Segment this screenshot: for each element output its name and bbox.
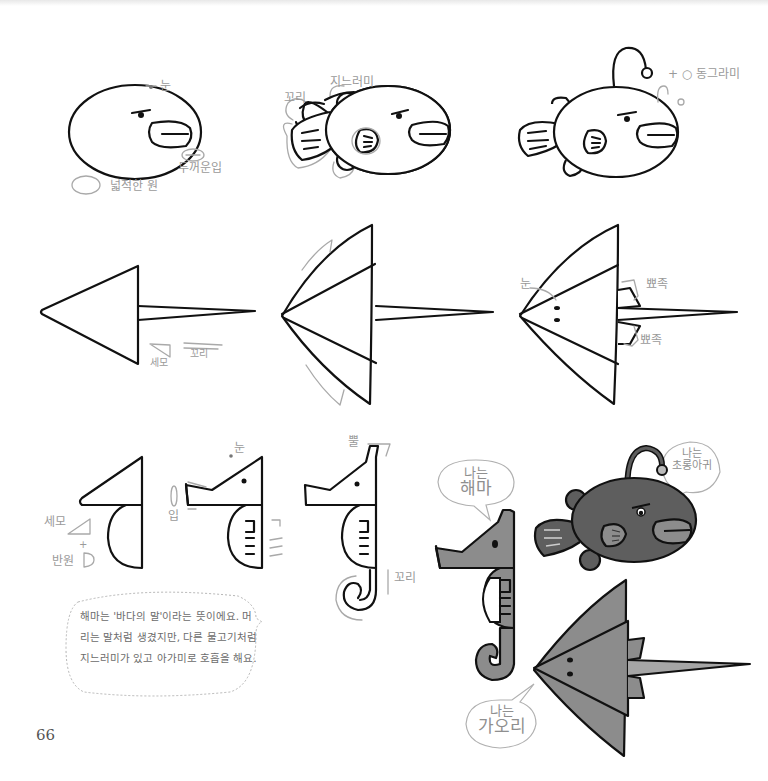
label-fin: 지느러미 bbox=[330, 76, 374, 88]
stingray-step2 bbox=[282, 225, 493, 405]
label-tail-2: 꼬리 bbox=[284, 92, 306, 104]
label-tail-ray: 꼬리 bbox=[190, 349, 208, 359]
page-number: 66 bbox=[36, 726, 55, 744]
label-tail-seahorse: 꼬리 bbox=[394, 572, 416, 584]
seahorse-step1 bbox=[68, 457, 142, 568]
label-horn: 뿔 bbox=[348, 436, 359, 448]
seahorse-step3 bbox=[305, 444, 390, 620]
stingray-step1 bbox=[41, 266, 255, 364]
stingray-speech-bubble: 나는 가오리 bbox=[470, 704, 534, 735]
bubble-line-2: 가오리 bbox=[470, 718, 534, 736]
label-pointy-top: 뾰족 bbox=[646, 278, 668, 290]
label-lure: + ○ 동그라미 bbox=[668, 68, 740, 80]
label-eye-1: 눈 bbox=[160, 80, 171, 92]
anglerfish-step1 bbox=[69, 85, 204, 194]
label-triangle-seahorse: 세모 bbox=[44, 516, 66, 528]
stingray-step3 bbox=[520, 225, 737, 404]
label-thick-lips: 두꺼운입 bbox=[178, 162, 222, 174]
anglerfish-step2 bbox=[283, 86, 450, 178]
seahorse-finished bbox=[436, 510, 514, 680]
bubble-line-1: 나는 bbox=[664, 448, 720, 460]
label-triangle-ray: 세모 bbox=[150, 358, 168, 368]
bubble-line-2: 해마 bbox=[444, 480, 508, 498]
stingray-finished bbox=[534, 580, 750, 756]
info-note-text: 해마는 '바다의 말'이라는 뜻이에요. 머리는 말처럼 생겼지만, 다른 물고… bbox=[80, 606, 258, 669]
label-semicircle: 반원 bbox=[52, 555, 74, 567]
label-wide-circle: 넓적한 원 bbox=[110, 180, 158, 192]
bubble-line-2: 초롱아귀 bbox=[664, 460, 720, 472]
label-eye-seahorse: 눈 bbox=[234, 442, 245, 454]
label-mouth: 입 bbox=[168, 510, 179, 522]
label-pointy-bottom: 뾰족 bbox=[640, 334, 662, 346]
label-plus: + bbox=[79, 540, 87, 550]
seahorse-speech-bubble: 나는 해마 bbox=[444, 466, 508, 497]
label-eye-ray: 눈 bbox=[520, 278, 531, 290]
anglerfish-speech-bubble: 나는 초롱아귀 bbox=[664, 448, 720, 471]
seahorse-step2 bbox=[171, 454, 282, 568]
anglerfish-step3 bbox=[519, 48, 684, 177]
